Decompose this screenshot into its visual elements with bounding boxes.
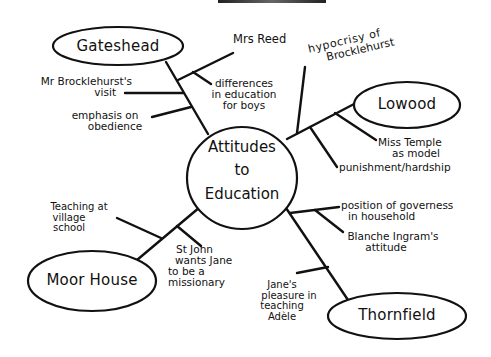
branch-text: school — [40, 223, 118, 234]
mind-map-canvas: Attitudes to Education Gateshead Lowood … — [0, 0, 491, 357]
branch-text: Teaching at — [40, 202, 118, 213]
branch-differences-education: differences in education for boys — [203, 78, 285, 111]
branch-text: attitude — [343, 242, 443, 253]
center-line-3: Education — [190, 183, 294, 206]
lowood-node-label: Lowood — [360, 95, 454, 113]
branch-miss-temple: Miss Temple as model — [378, 137, 442, 159]
branch-teaching-village-school: Teaching at village school — [40, 202, 118, 234]
branch-text: punishment/hardship — [339, 162, 451, 173]
branch-brocklehurst-visit: Mr Brocklehurst's visit — [20, 76, 132, 98]
obedience-branch-line — [152, 107, 191, 117]
branch-punishment-hardship: punishment/hardship — [339, 162, 451, 173]
branch-text: Mrs Reed — [233, 33, 286, 45]
branch-text: missionary — [168, 277, 232, 288]
blanche-branch-line — [315, 210, 343, 232]
thornfield-node-label: Thornfield — [333, 306, 461, 324]
teaching-village-branch-line — [117, 218, 161, 238]
branch-mrs-reed: Mrs Reed — [233, 33, 286, 45]
branch-text: teaching — [253, 301, 325, 312]
branch-st-john-missionary: St John wants Jane to be a missionary — [168, 244, 232, 288]
branch-emphasis-obedience: emphasis on obedience — [58, 110, 152, 132]
branch-text: Jane's — [253, 280, 325, 291]
center-node-label: Attitudes to Education — [190, 136, 294, 206]
gateshead-node-label: Gateshead — [60, 37, 176, 55]
branch-blanche-ingram: Blanche Ingram's attitude — [343, 231, 443, 253]
janes-pleasure-branch-line — [297, 267, 328, 273]
hypocrisy-branch-line — [297, 67, 305, 133]
mrs-reed-branch-line — [178, 53, 233, 80]
branch-text: Adèle — [253, 312, 325, 323]
center-line-2: to — [190, 159, 294, 182]
branch-text: obedience — [58, 121, 152, 132]
branch-janes-pleasure-teaching: Jane's pleasure in teaching Adèle — [253, 280, 325, 322]
branch-text: visit — [20, 87, 132, 98]
gateshead-spoke-line — [166, 62, 208, 134]
branch-position-governess: position of governess in household — [341, 200, 453, 222]
branch-text: as model — [378, 148, 442, 159]
center-line-1: Attitudes — [190, 136, 294, 159]
punishment-branch-line — [310, 127, 337, 167]
branch-text: for boys — [203, 100, 285, 111]
moor-house-node-label: Moor House — [32, 271, 152, 289]
branch-text: in household — [341, 211, 453, 222]
